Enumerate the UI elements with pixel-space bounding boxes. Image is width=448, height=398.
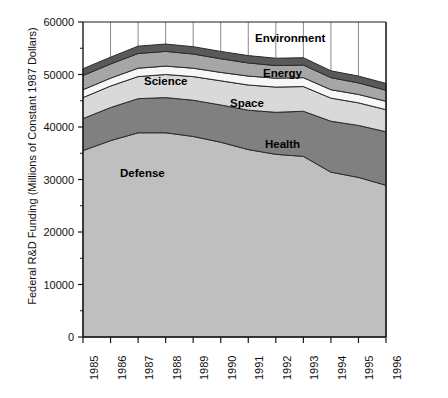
series-label-environment: Environment xyxy=(255,32,325,44)
series-label-science: Science xyxy=(144,75,187,87)
x-tick-label: 1996 xyxy=(391,356,403,380)
series-label-space: Space xyxy=(230,97,264,109)
series-label-defense: Defense xyxy=(120,167,165,179)
y-tick-label: 0 xyxy=(0,331,74,343)
y-tick-label: 40000 xyxy=(0,121,74,133)
chart-figure: Federal R&D Funding (Millions of Constan… xyxy=(0,0,448,398)
y-tick-label: 20000 xyxy=(0,226,74,238)
series-label-energy: Energy xyxy=(263,67,302,79)
area-series-group xyxy=(83,44,386,337)
y-tick-label: 30000 xyxy=(0,174,74,186)
y-tick-label: 10000 xyxy=(0,279,74,291)
x-tick-label: 1995 xyxy=(363,356,375,380)
y-tick-label: 50000 xyxy=(0,69,74,81)
x-tick-label: 1988 xyxy=(171,356,183,380)
series-label-health: Health xyxy=(265,138,300,150)
x-tick-label: 1993 xyxy=(308,356,320,380)
x-tick-label: 1990 xyxy=(226,356,238,380)
y-tick-label: 60000 xyxy=(0,16,74,28)
x-tick-label: 1989 xyxy=(198,356,210,380)
x-tick-label: 1987 xyxy=(143,356,155,380)
x-tick-label: 1986 xyxy=(116,356,128,380)
x-tick-label: 1991 xyxy=(253,356,265,380)
x-tick-label: 1994 xyxy=(336,356,348,380)
x-tick-label: 1985 xyxy=(88,356,100,380)
x-tick-label: 1992 xyxy=(281,356,293,380)
